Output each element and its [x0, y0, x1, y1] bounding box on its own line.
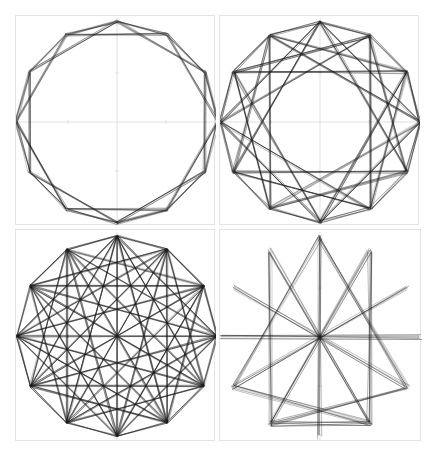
axes — [18, 18, 215, 224]
chords — [16, 235, 216, 437]
star-diagram — [16, 16, 216, 226]
panel-bottom-right: Twelve diameters (spokes) with selected … — [219, 229, 421, 441]
star-diagram — [220, 230, 422, 442]
star-diagram — [16, 230, 216, 442]
star-diagram — [220, 16, 420, 226]
panel-top-left: Dodecagon with {12/1} and {12/2} chords — [15, 15, 215, 225]
panel-bottom-left: Dodecagon with {12/1}, {12/3}, {12/4}, {… — [15, 229, 215, 441]
panel-top-right: Dodecagon with {12/1}, {12/3} and {12/4}… — [219, 15, 419, 225]
